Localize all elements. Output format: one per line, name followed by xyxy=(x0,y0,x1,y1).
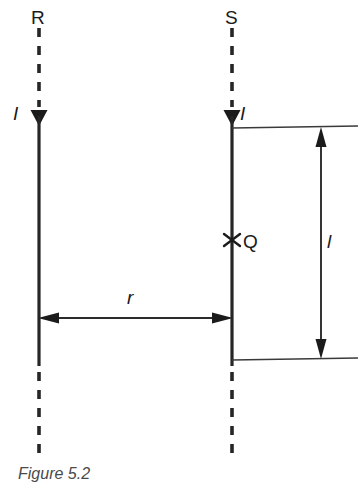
label-current-right: I xyxy=(240,104,245,123)
label-conductor-R: R xyxy=(31,8,45,27)
label-charge-point-Q: Q xyxy=(243,232,258,251)
label-length-l: l xyxy=(327,232,331,251)
diagram-canvas xyxy=(0,0,364,483)
length-arrowhead-down xyxy=(316,339,327,359)
extension-line-top xyxy=(232,126,358,128)
figure-caption: Figure 5.2 xyxy=(18,466,90,482)
separation-arrowhead-left xyxy=(38,313,59,324)
length-arrowhead-up xyxy=(316,127,327,147)
label-conductor-S: S xyxy=(225,8,238,27)
label-separation-r: r xyxy=(127,288,133,307)
label-current-left: I xyxy=(13,104,18,123)
separation-arrowhead-right xyxy=(212,313,233,324)
figure-5-2-diagram: R S I I Q r l Figure 5.2 xyxy=(0,0,364,483)
extension-line-bottom xyxy=(232,358,358,360)
